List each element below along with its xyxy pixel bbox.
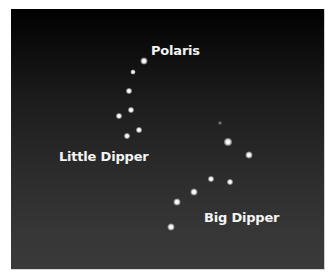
star-big-dipper bbox=[246, 152, 253, 159]
star-big-dipper bbox=[224, 138, 232, 146]
star-big-dipper bbox=[208, 176, 214, 182]
star-little-dipper bbox=[124, 133, 130, 139]
polaris-label: Polaris bbox=[151, 43, 200, 58]
night-sky-image: Polaris Little Dipper Big Dipper bbox=[11, 9, 325, 270]
star-little-dipper bbox=[116, 113, 122, 119]
star-little-dipper bbox=[136, 127, 142, 133]
big-dipper-label: Big Dipper bbox=[204, 210, 279, 225]
star-faint bbox=[218, 121, 222, 125]
star-little-dipper bbox=[126, 88, 132, 94]
star-polaris bbox=[141, 58, 148, 65]
little-dipper-label: Little Dipper bbox=[59, 149, 148, 164]
star-big-dipper bbox=[227, 179, 233, 185]
star-little-dipper bbox=[128, 107, 134, 113]
star-little-dipper bbox=[131, 70, 136, 75]
star-big-dipper bbox=[168, 224, 175, 231]
star-big-dipper bbox=[191, 189, 198, 196]
star-big-dipper bbox=[174, 199, 181, 206]
